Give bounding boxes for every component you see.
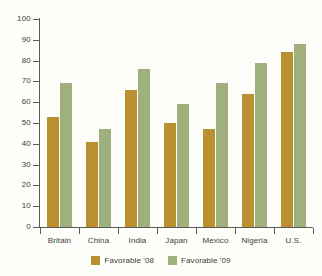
x-axis-line: [39, 227, 313, 228]
y-axis-tick-label: 50: [1, 119, 31, 127]
y-axis-tick-label: 20: [1, 181, 31, 189]
y-axis-tick: [33, 144, 39, 145]
y-axis-tick: [33, 81, 39, 82]
y-axis-tick-label: 60: [1, 98, 31, 106]
legend-label: Favorable '09: [181, 257, 231, 265]
x-axis-tick: [235, 228, 236, 234]
legend-swatch-icon: [168, 256, 177, 265]
bar-china-08: [86, 142, 98, 227]
x-axis-tick: [196, 228, 197, 234]
bar-britain-08: [47, 117, 59, 227]
x-axis-label-us: U.S.: [274, 237, 313, 245]
legend-swatch-icon: [91, 256, 100, 265]
bar-japan-09: [177, 104, 189, 227]
y-axis-tick-labels: 0102030405060708090100: [0, 0, 31, 276]
y-axis-tick: [33, 227, 39, 228]
bar-india-09: [138, 69, 150, 227]
x-axis-label-nigeria: Nigeria: [235, 237, 274, 245]
y-axis-tick-label: 30: [1, 161, 31, 169]
y-axis-tick: [33, 40, 39, 41]
legend-item-08[interactable]: Favorable '08: [91, 256, 154, 265]
x-axis-tick: [40, 228, 41, 234]
bar-nigeria-08: [242, 94, 254, 227]
x-axis-label-britain: Britain: [40, 237, 79, 245]
legend-item-09[interactable]: Favorable '09: [168, 256, 231, 265]
x-axis-label-japan: Japan: [157, 237, 196, 245]
bar-mexico-08: [203, 129, 215, 227]
y-axis-tick: [33, 165, 39, 166]
y-axis-tick: [33, 123, 39, 124]
bar-mexico-09: [216, 83, 228, 227]
bar-nigeria-09: [255, 63, 267, 227]
x-axis-tick: [118, 228, 119, 234]
bar-britain-09: [60, 83, 72, 227]
y-axis-tick: [33, 19, 39, 20]
x-axis-label-china: China: [79, 237, 118, 245]
bar-india-08: [125, 90, 137, 227]
y-axis-tick-label: 10: [1, 202, 31, 210]
x-axis-tick: [79, 228, 80, 234]
y-axis-tick-label: 100: [1, 15, 31, 23]
bar-us-09: [294, 44, 306, 227]
y-axis-tick-label: 70: [1, 77, 31, 85]
bar-china-09: [99, 129, 111, 227]
x-axis-label-mexico: Mexico: [196, 237, 235, 245]
y-axis-tick: [33, 102, 39, 103]
x-axis-tick: [157, 228, 158, 234]
legend-label: Favorable '08: [104, 257, 154, 265]
y-axis-tick: [33, 61, 39, 62]
plot-area: [40, 19, 313, 227]
y-axis-tick-label: 40: [1, 140, 31, 148]
y-axis-tick-label: 80: [1, 57, 31, 65]
x-axis-tick: [313, 228, 314, 234]
bar-japan-08: [164, 123, 176, 227]
y-axis-tick-label: 0: [1, 223, 31, 231]
x-axis-label-india: India: [118, 237, 157, 245]
y-axis-tick: [33, 185, 39, 186]
y-axis-tick: [33, 206, 39, 207]
bar-us-08: [281, 52, 293, 227]
chart-legend: Favorable '08Favorable '09: [0, 256, 322, 265]
y-axis-tick-label: 90: [1, 36, 31, 44]
bar-chart-figure: 0102030405060708090100 BritainChinaIndia…: [0, 0, 322, 276]
x-axis-tick: [274, 228, 275, 234]
